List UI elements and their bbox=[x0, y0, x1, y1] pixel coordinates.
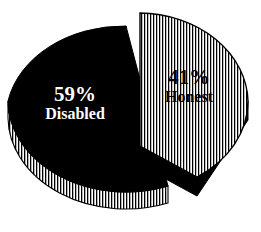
pie-chart: 59% Disabled 41% Honest bbox=[0, 0, 261, 232]
pie-chart-graphic bbox=[0, 0, 261, 232]
slice-honest bbox=[140, 13, 248, 177]
